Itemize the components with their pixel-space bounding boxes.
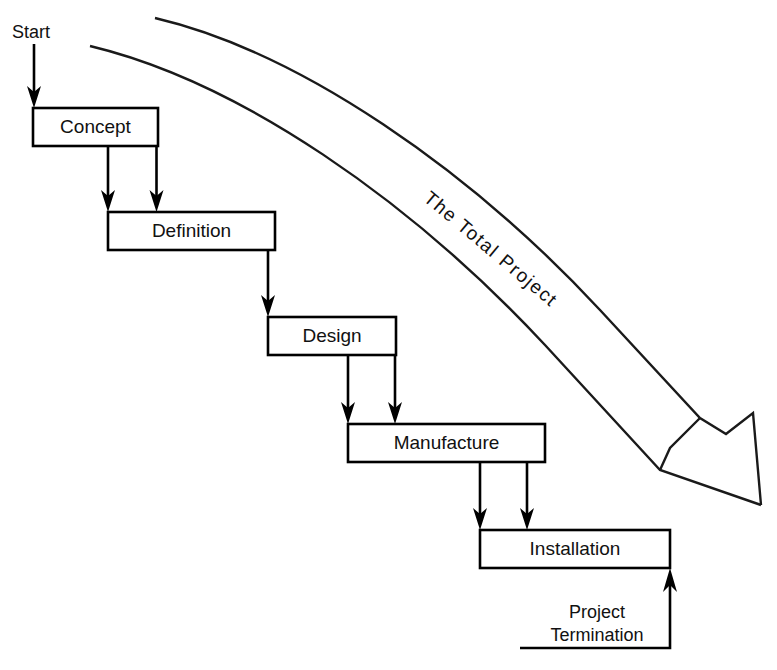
start-arrow xyxy=(27,44,41,108)
start-label: Start xyxy=(12,22,50,42)
installation-label: Installation xyxy=(530,538,621,559)
project-termination-label-line1: Project xyxy=(569,602,625,622)
concept-label: Concept xyxy=(60,116,131,137)
connector-design-to-manufacture xyxy=(341,355,402,424)
waterfall-diagram: The Total Project Start Concept Definiti… xyxy=(0,0,777,670)
stage-box-concept[interactable]: Concept xyxy=(33,108,158,146)
connector-manufacture-to-installation xyxy=(473,462,534,530)
design-label: Design xyxy=(302,325,361,346)
definition-label: Definition xyxy=(152,220,231,241)
stage-box-design[interactable]: Design xyxy=(268,317,396,355)
diagram-canvas: The Total Project Start Concept Definiti… xyxy=(0,0,777,670)
connector-definition-to-design xyxy=(261,250,275,317)
stage-box-definition[interactable]: Definition xyxy=(108,212,275,250)
connector-concept-to-definition xyxy=(101,146,164,212)
stage-box-installation[interactable]: Installation xyxy=(480,530,670,568)
manufacture-label: Manufacture xyxy=(394,432,500,453)
stage-box-manufacture[interactable]: Manufacture xyxy=(348,424,545,462)
project-termination-label-line2: Termination xyxy=(550,625,643,645)
total-project-arrow-barb xyxy=(660,418,700,470)
